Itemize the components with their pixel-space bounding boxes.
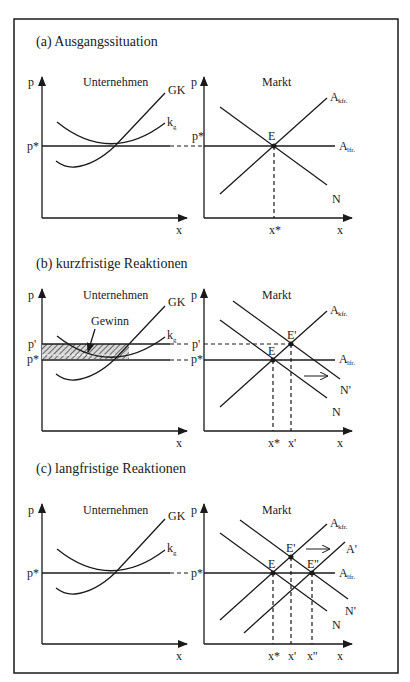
panel-a-title: (a) Ausgangssituation	[36, 34, 158, 50]
panel-c: (c) langfristige Reaktionen p Unternehme…	[27, 461, 357, 663]
y-axis-label: p	[28, 75, 34, 89]
panel-b-firm-chart: p Unternehmen p' p* GK k g Gewinn x	[27, 288, 191, 450]
gk-label: GK	[168, 83, 186, 97]
y-axis-label: p	[191, 288, 197, 302]
p-prime-label: p'	[28, 337, 36, 351]
svg-text:N: N	[332, 192, 341, 206]
svg-text:g: g	[173, 123, 177, 131]
market-heading: Markt	[262, 288, 292, 302]
avg-cost-curve	[57, 549, 165, 571]
panel-c-title: (c) langfristige Reaktionen	[36, 461, 186, 477]
equilibrium-point	[272, 144, 277, 149]
x-prime-label: x'	[288, 436, 296, 450]
svg-text:N: N	[332, 618, 341, 632]
x-axis-label: x	[337, 223, 343, 237]
panel-a: (a) Ausgangssituation p x Unternehmen p*…	[27, 34, 355, 237]
equilibrium-e-prime	[289, 555, 294, 560]
p-star-label: p*	[192, 129, 204, 143]
svg-text:g: g	[173, 336, 177, 344]
firm-heading: Unternehmen	[83, 503, 148, 517]
x-double-prime-label: x''	[307, 649, 317, 663]
avg-cost-curve	[57, 122, 165, 144]
x-axis-label: x	[176, 223, 182, 237]
svg-text:lfr.: lfr.	[347, 146, 355, 154]
gewinn-label: Gewinn	[91, 314, 129, 328]
equilibrium-e-double-prime	[310, 571, 315, 576]
p-star-label: p*	[191, 352, 203, 366]
p-star-label: p*	[27, 566, 39, 580]
panel-b: (b) kurzfristige Reaktionen p Unternehme…	[27, 256, 355, 450]
panel-c-firm-chart: p Unternehmen p* GK k g x	[27, 503, 191, 663]
point-e-double-prime-label: E''	[307, 557, 319, 571]
svg-text:N': N'	[345, 604, 356, 618]
svg-text:kfr.: kfr.	[338, 523, 348, 531]
x-axis-label: x	[337, 436, 343, 450]
x-axis-label: x	[176, 649, 182, 663]
point-e-prime-label: E'	[287, 328, 297, 342]
svg-text:N': N'	[340, 383, 351, 397]
svg-text:lfr.: lfr.	[347, 573, 355, 581]
market-heading: Markt	[262, 75, 292, 89]
equilibrium-e	[271, 358, 276, 363]
point-e-label: E	[268, 129, 275, 143]
svg-text:A': A'	[346, 542, 357, 556]
equilibrium-e	[271, 571, 276, 576]
svg-text:lfr.: lfr.	[347, 359, 355, 367]
market-adjustment-diagram: (a) Ausgangssituation p x Unternehmen p*…	[0, 0, 410, 682]
svg-text:g: g	[173, 549, 177, 557]
point-e-prime-label: E'	[286, 541, 296, 555]
firm-heading: Unternehmen	[83, 75, 148, 89]
marginal-cost-curve	[56, 93, 165, 167]
panel-b-title: (b) kurzfristige Reaktionen	[36, 256, 188, 272]
svg-text:N: N	[332, 405, 341, 419]
marginal-cost-curve	[56, 519, 165, 594]
firm-heading: Unternehmen	[83, 288, 148, 302]
p-star-label: p*	[27, 139, 39, 153]
y-axis-label: p	[28, 288, 34, 302]
y-axis-label: p	[191, 75, 197, 89]
p-prime-label: p'	[192, 337, 200, 351]
x-star-label: x*	[268, 436, 280, 450]
x-prime-label: x'	[288, 649, 296, 663]
panel-a-firm-chart: p x Unternehmen p* GK k g	[27, 75, 204, 237]
equilibrium-e-prime	[289, 342, 294, 347]
p-star-label: p*	[191, 566, 203, 580]
panel-a-market-chart: p x Markt p* E x* A kfr. A lfr. N	[191, 75, 355, 237]
svg-text:kfr.: kfr.	[338, 310, 348, 318]
gk-label: GK	[168, 295, 186, 309]
x-star-label: x*	[268, 649, 280, 663]
panel-c-market-chart: p Markt p* E E' E'' x* x' x'' x A kfr. A…	[191, 503, 357, 663]
point-e-label: E	[268, 557, 275, 571]
p-star-label: p*	[27, 352, 39, 366]
x-star-label: x*	[269, 223, 281, 237]
svg-text:kfr.: kfr.	[338, 97, 348, 105]
gk-label: GK	[168, 509, 186, 523]
x-axis-label: x	[337, 649, 343, 663]
x-axis-label: x	[176, 436, 182, 450]
market-heading: Markt	[262, 503, 292, 517]
panel-b-market-chart: p Markt p' p* E E' x* x' x A kfr. A lfr.…	[191, 288, 355, 450]
y-axis-label: p	[28, 503, 34, 517]
y-axis-label: p	[191, 503, 197, 517]
point-e-label: E	[268, 344, 275, 358]
